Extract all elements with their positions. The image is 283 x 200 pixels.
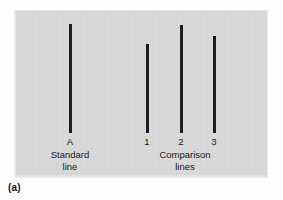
comparison-line-1 <box>146 44 149 133</box>
caption-comparison-lines: Comparison lines <box>140 149 230 172</box>
caption-comparison-word-2: lines <box>140 161 230 173</box>
stimulus-panel: A 1 2 3 Standard line Comparison lines <box>14 10 268 178</box>
comparison-line-2 <box>180 25 183 133</box>
label-standard-id: A <box>50 136 90 147</box>
label-comparison-id-3: 3 <box>194 136 234 147</box>
figure-root: A 1 2 3 Standard line Comparison lines (… <box>0 0 283 200</box>
figure-part-label: (a) <box>8 182 21 193</box>
standard-line-a <box>69 24 72 133</box>
caption-standard-line: Standard line <box>30 149 110 172</box>
caption-comparison-word-1: Comparison <box>140 149 230 161</box>
comparison-line-3 <box>213 36 216 133</box>
caption-standard-word-1: Standard <box>30 149 110 161</box>
caption-standard-word-2: line <box>30 161 110 173</box>
